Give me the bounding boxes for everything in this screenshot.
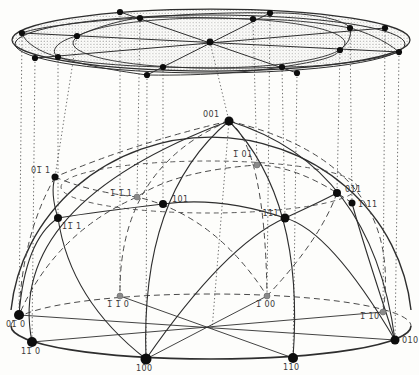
pole-label-110: 110 — [283, 363, 299, 372]
pole-dot-1-11 — [54, 214, 62, 222]
pole-dot--101 — [254, 162, 260, 168]
pole-label--101: 1̅ 01 — [233, 150, 252, 159]
figure-spherical-projection: 0011̅ 0101̅ 11̅ 1̅ 11011110111̅ 1111̅ 10… — [0, 0, 419, 375]
pole-dot--110 — [380, 309, 386, 315]
disk-point--100 — [267, 10, 273, 16]
pole-label-1-11: 11̅ 1 — [62, 222, 81, 231]
disk-point-011 — [337, 47, 343, 53]
pole-dot--1-11 — [134, 194, 140, 200]
pole-label-010: 010 — [402, 336, 418, 345]
pole-dot-011 — [333, 189, 341, 197]
disk-point-100 — [144, 72, 150, 78]
pole-label-0-10: 01̅ 0 — [6, 320, 25, 329]
great-circle-back-7 — [19, 165, 352, 315]
pole-label--111: 1̅ 11 — [358, 200, 377, 209]
projection-plane-disk — [12, 9, 410, 78]
pole-label-101: 101 — [172, 195, 188, 204]
projection-line-111 — [282, 67, 285, 218]
projection-line-1-10 — [32, 58, 35, 342]
equator-front — [11, 326, 411, 359]
great-circle-front-0 — [146, 121, 229, 359]
pole-label--1-11: 1̅ 1̅ 1 — [110, 189, 132, 198]
pole-label--100: 1̅ 00 — [256, 300, 275, 309]
pole-dot-100 — [141, 354, 152, 365]
disk-point-110 — [294, 70, 300, 76]
pole-label-001: 001 — [203, 110, 219, 119]
disk-point-0-11 — [74, 33, 80, 39]
disk-point--1-10 — [117, 9, 123, 15]
disk-point-1-10 — [32, 55, 38, 61]
pole-label-0-11: 01̅ 1 — [31, 166, 50, 175]
disk-point-101 — [160, 64, 166, 70]
pole-label-011: 011 — [345, 185, 361, 194]
hemisphere — [11, 117, 411, 365]
great-circle-back-2 — [19, 177, 55, 315]
pole-dot--100 — [264, 293, 270, 299]
pole-label-111: 111 — [263, 209, 279, 218]
vertical-axis-line — [212, 121, 229, 330]
pole-dot-111 — [281, 214, 290, 223]
great-circle-back-3 — [120, 121, 229, 296]
disk-point--1-11 — [137, 15, 143, 21]
pole-dot-110 — [288, 353, 298, 363]
disk-point-111 — [279, 64, 285, 70]
pole-label-100: 100 — [136, 364, 152, 373]
disk-point-010 — [396, 49, 402, 55]
pole-dot-101 — [159, 200, 167, 208]
disk-point-001 — [207, 39, 214, 46]
projection-line-010 — [395, 52, 399, 340]
disk-point-1-11 — [55, 54, 61, 60]
pole-label-1-10: 11̅ 0 — [21, 347, 40, 356]
disk-point-0-10 — [19, 30, 25, 36]
pole-label--110: 1̅ 10 — [360, 312, 379, 321]
disk-point--110 — [382, 25, 388, 31]
disk-point--101 — [250, 16, 256, 22]
pole-dot-1-10 — [27, 337, 37, 347]
pole-dot--1-10 — [117, 293, 123, 299]
disk-point--111 — [347, 25, 353, 31]
great-circle-back-6 — [55, 177, 267, 296]
equator-back — [11, 294, 411, 326]
pole-dot--111 — [349, 200, 356, 207]
pole-labels: 0011̅ 0101̅ 11̅ 1̅ 11011110111̅ 1111̅ 10… — [6, 110, 418, 373]
great-circle-front-1 — [229, 121, 395, 340]
pole-dot-001 — [225, 117, 234, 126]
pole-dot-0-11 — [52, 174, 59, 181]
projection-diagram-svg: 0011̅ 0101̅ 11̅ 1̅ 11011110111̅ 1111̅ 10… — [0, 0, 419, 375]
pole-dot-010 — [391, 336, 400, 345]
pole-label--1-10: 1̅ 1̅ 0 — [107, 300, 129, 309]
pole-dot-0-10 — [14, 310, 24, 320]
